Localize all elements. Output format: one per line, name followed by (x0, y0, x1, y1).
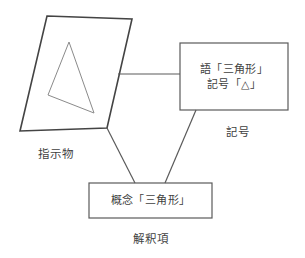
interpretant-node-line-1: 概念「三角形」 (111, 193, 191, 208)
sign-node-line-2: 記号「△」 (207, 77, 261, 92)
referent-label: 指示物 (18, 145, 94, 161)
sign-node: 語「三角形」 記号「△」 (180, 43, 288, 110)
sign-node-line-1: 語「三角形」 (200, 62, 268, 77)
referent-parallelogram-shape (20, 16, 132, 131)
interpretant-node: 概念「三角形」 (89, 183, 212, 218)
diagram-canvas: 語「三角形」 記号「△」 概念「三角形」 指示物 記号 解釈項 (0, 0, 305, 258)
connector-sign-to-interpretant (165, 110, 196, 183)
connector-referent-to-interpretant (107, 128, 135, 183)
sign-label: 記号 (206, 123, 270, 139)
interpretant-label: 解釈項 (118, 230, 184, 246)
referent-inner-triangle-icon (48, 42, 94, 113)
